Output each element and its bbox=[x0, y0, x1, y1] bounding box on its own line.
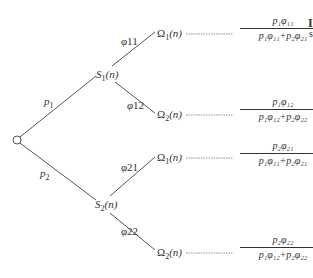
posterior-fraction-4: p₂φ₂₂ p₁φ₁₂+p₂φ₂₂ bbox=[240, 235, 313, 260]
branch-label-p1: p1 bbox=[44, 96, 54, 110]
leaf-node-omega1-a: Ω1(n) bbox=[157, 28, 182, 42]
state-node-s2: S2(n) bbox=[95, 199, 117, 213]
posterior-fraction-3: p₂φ₂₁ p₁φ₁₁+p₂φ₂₁ bbox=[240, 141, 313, 166]
fraction-numerator: p₂φ₂₁ bbox=[240, 141, 313, 153]
fraction-numerator: p₂φ₂₂ bbox=[240, 235, 313, 247]
leaf-node-omega1-b: Ω1(n) bbox=[157, 152, 182, 166]
fraction-numerator: p₁φ₁₂ bbox=[240, 97, 313, 109]
fraction-denominator: p₁φ₁₁+p₂φ₂₁ bbox=[240, 29, 313, 41]
fraction-numerator: p₁φ₁₁ bbox=[240, 16, 313, 28]
leaf-node-omega2-a: Ω2(n) bbox=[157, 109, 182, 123]
branch-label-p2: p2 bbox=[40, 168, 50, 182]
branch-label-phi11: φ11 bbox=[121, 36, 138, 47]
fraction-denominator: p₁φ₁₂+p₂φ₂₂ bbox=[240, 248, 313, 260]
root-node-icon bbox=[13, 136, 21, 144]
branch-label-phi21: φ21 bbox=[121, 162, 138, 173]
posterior-fraction-2: p₁φ₁₂ p₁φ₁₂+p₂φ₂₂ bbox=[240, 97, 313, 122]
state-node-s1: S1(n) bbox=[96, 69, 118, 83]
cropped-text-line2: s bbox=[309, 29, 313, 39]
branch-label-phi12: φ12 bbox=[127, 100, 144, 111]
fraction-denominator: p₁φ₁₁+p₂φ₂₁ bbox=[240, 154, 313, 166]
fraction-denominator: p₁φ₁₂+p₂φ₂₂ bbox=[240, 110, 313, 122]
posterior-fraction-1: p₁φ₁₁ p₁φ₁₁+p₂φ₂₁ bbox=[240, 16, 313, 41]
leaf-node-omega2-b: Ω2(n) bbox=[157, 247, 182, 261]
branch-label-phi22: φ22 bbox=[121, 226, 138, 237]
